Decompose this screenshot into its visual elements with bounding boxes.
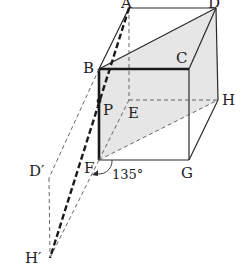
label-b: B: [83, 59, 94, 77]
label-f: F: [84, 159, 94, 177]
label-d-prime: D′: [29, 162, 45, 180]
label-p: P: [103, 101, 113, 119]
label-h: H: [222, 91, 235, 109]
label-h-prime: H′: [25, 249, 42, 267]
label-g: G: [181, 164, 193, 182]
label-angle: 135°: [112, 167, 143, 182]
label-d: D: [208, 0, 220, 12]
label-c: C: [176, 49, 187, 67]
cuboid-diagram: A D B C P E H F G D′ H′ 135°: [0, 0, 242, 280]
point-p: [97, 99, 102, 104]
label-a: A: [120, 0, 132, 12]
label-e: E: [128, 104, 139, 122]
